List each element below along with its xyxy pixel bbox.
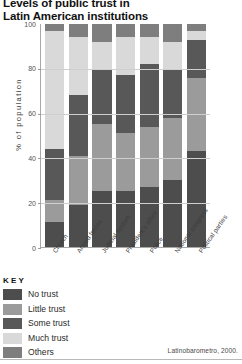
legend-color-swatch (3, 318, 22, 329)
legend-item-label: Little trust (28, 304, 65, 315)
y-tick-label: 100 (14, 21, 36, 28)
legend-item[interactable]: Much trust (3, 332, 143, 345)
source-note: Latinobarometro, 2000. (168, 347, 238, 354)
chart-plot-area: % of population 100806040200 ChurchArmed… (0, 24, 242, 256)
gridline (41, 203, 210, 204)
gridline (41, 158, 210, 159)
bar-segment (163, 180, 182, 247)
y-tick-label: 20 (14, 200, 36, 207)
legend-color-swatch (3, 333, 22, 344)
legend-item-label: Others (28, 347, 54, 358)
bar-segment (69, 37, 88, 95)
bar-segment (92, 24, 111, 42)
legend-color-swatch (3, 347, 22, 358)
bar-segment (116, 24, 135, 37)
bar-segment (45, 31, 64, 149)
page-title: Levels of public trust in Latin American… (3, 0, 239, 22)
y-axis-tick-labels: 100806040200 (12, 24, 36, 256)
bar-segment (163, 118, 182, 180)
bar-segment (69, 156, 88, 205)
bar-segment (140, 37, 159, 64)
bar-segment (163, 24, 182, 42)
legend-item-label: Some trust (28, 318, 70, 329)
bar-segment (163, 42, 182, 69)
bar-segment (45, 149, 64, 200)
page-title-line-2: Latin American institutions (3, 10, 239, 23)
bar-segment (140, 127, 159, 187)
bar-segment (140, 64, 159, 126)
bar-segment (163, 69, 182, 118)
legend-item-label: No trust (28, 289, 58, 300)
bar-segment (187, 40, 206, 78)
table-row[interactable] (69, 24, 88, 247)
table-row[interactable] (45, 24, 64, 247)
bottom-divider (0, 359, 242, 360)
legend-color-swatch (3, 289, 22, 300)
gridline (41, 69, 210, 70)
y-tick-label: 60 (14, 110, 36, 117)
chart-page: Levels of public trust in Latin American… (0, 0, 242, 364)
legend-item[interactable]: Others (3, 346, 143, 359)
gridline (41, 114, 210, 115)
y-tick-mark (38, 248, 41, 249)
y-tick-label: 40 (14, 155, 36, 162)
bar-segment (69, 24, 88, 37)
table-row[interactable] (92, 24, 111, 247)
bar-segment (187, 24, 206, 31)
legend-heading: KEY (3, 276, 143, 285)
legend-items: No trustLittle trustSome trustMuch trust… (3, 288, 143, 359)
bar-segment (116, 133, 135, 191)
bar-segment (140, 24, 159, 37)
bar-segment (92, 69, 111, 125)
legend: KEY No trustLittle trustSome trustMuch t… (3, 276, 143, 361)
table-row[interactable] (163, 24, 182, 247)
bar-segment (69, 95, 88, 155)
legend-color-swatch (3, 304, 22, 315)
page-title-line-1: Levels of public trust in (3, 0, 239, 10)
bar-segment (92, 42, 111, 69)
legend-item[interactable]: No trust (3, 288, 143, 301)
bar-segment (45, 24, 64, 31)
y-tick-label: 0 (14, 245, 36, 252)
bar-segment (116, 75, 135, 133)
legend-item[interactable]: Little trust (3, 303, 143, 316)
bar-segment (187, 31, 206, 40)
legend-item-label: Much trust (28, 333, 68, 344)
legend-item[interactable]: Some trust (3, 317, 143, 330)
y-tick-label: 80 (14, 65, 36, 72)
